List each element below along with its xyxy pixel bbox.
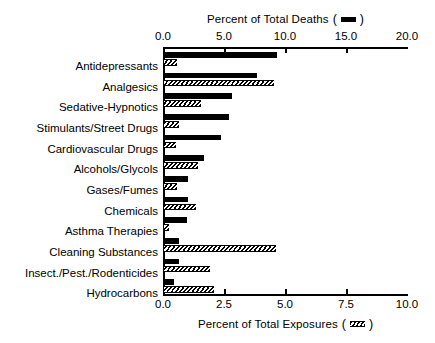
bar-exposures-alcohols-glycols bbox=[164, 162, 198, 169]
bottom-legend-close-paren: ) bbox=[369, 318, 373, 331]
category-label-antidepressants: Antidepressants bbox=[0, 60, 158, 72]
bottom-tick-mark-1 bbox=[224, 289, 226, 294]
top-axis-title-group: Percent of Total Deaths ( ) bbox=[163, 13, 408, 26]
bottom-tick-mark-3 bbox=[346, 289, 348, 294]
bar-exposures-analgesics bbox=[164, 80, 274, 87]
bar-deaths-hydrocarbons bbox=[164, 279, 174, 285]
hatched-bar-icon bbox=[350, 321, 365, 327]
bottom-tick-label-1: 2.5 bbox=[216, 298, 232, 310]
bottom-tick-mark-2 bbox=[285, 289, 287, 294]
bar-exposures-stimulants-street-drugs bbox=[164, 121, 179, 128]
bottom-tick-label-3: 7.5 bbox=[338, 298, 354, 310]
bar-deaths-cleaning-substances bbox=[164, 238, 179, 244]
category-label-cleaning-substances: Cleaning Substances bbox=[0, 246, 158, 258]
solid-black-bar-icon bbox=[341, 17, 356, 22]
category-label-hydrocarbons: Hydrocarbons bbox=[0, 287, 158, 299]
bar-deaths-analgesics bbox=[164, 73, 257, 79]
bar-deaths-asthma-therapies bbox=[164, 217, 187, 223]
top-tick-label-1: 5.0 bbox=[216, 30, 232, 42]
top-axis-title: Percent of Total Deaths bbox=[207, 13, 329, 25]
plot-area bbox=[164, 47, 408, 295]
bar-deaths-gases-fumes bbox=[164, 176, 188, 182]
bottom-tick-label-2: 5.0 bbox=[277, 298, 293, 310]
category-label-sedative-hypnotics: Sedative-Hypnotics bbox=[0, 101, 158, 113]
category-label-analgesics: Analgesics bbox=[0, 81, 158, 93]
category-label-alcohols-glycols: Alcohols/Glycols bbox=[0, 163, 158, 175]
bar-exposures-asthma-therapies bbox=[164, 224, 169, 231]
bottom-tick-label-0: 0.0 bbox=[155, 298, 171, 310]
bar-exposures-sedative-hypnotics bbox=[164, 100, 201, 107]
bar-exposures-chemicals bbox=[164, 204, 196, 211]
bar-deaths-stimulants-street-drugs bbox=[164, 114, 229, 120]
top-tick-label-2: 10.0 bbox=[274, 30, 296, 42]
bottom-axis-title-group: Percent of Total Exposures ( ) bbox=[163, 318, 408, 331]
bar-exposures-insect-pest-rodenticides bbox=[164, 266, 210, 273]
category-axis-labels: Antidepressants Analgesics Sedative-Hypn… bbox=[0, 47, 158, 295]
top-tick-label-4: 20.0 bbox=[396, 30, 418, 42]
category-label-stimulants-street-drugs: Stimulants/Street Drugs bbox=[0, 122, 158, 134]
bar-exposures-gases-fumes bbox=[164, 183, 177, 190]
category-label-asthma-therapies: Asthma Therapies bbox=[0, 225, 158, 237]
top-legend-open-paren: ( bbox=[333, 13, 337, 26]
bar-deaths-sedative-hypnotics bbox=[164, 93, 232, 99]
bottom-legend-open-paren: ( bbox=[342, 318, 346, 331]
category-label-gases-fumes: Gases/Fumes bbox=[0, 184, 158, 196]
bottom-tick-label-4: 10.0 bbox=[396, 298, 418, 310]
bottom-axis-title: Percent of Total Exposures bbox=[198, 318, 338, 330]
top-tick-label-3: 15.0 bbox=[335, 30, 357, 42]
category-label-cardiovascular-drugs: Cardiovascular Drugs bbox=[0, 143, 158, 155]
bar-deaths-insect-pest-rodenticides bbox=[164, 259, 179, 265]
category-label-chemicals: Chemicals bbox=[0, 205, 158, 217]
bar-exposures-hydrocarbons bbox=[164, 286, 214, 293]
bar-deaths-alcohols-glycols bbox=[164, 155, 204, 161]
bar-exposures-antidepressants bbox=[164, 59, 177, 66]
chart-container: Percent of Total Deaths ( ) 0.0 5.0 10.0… bbox=[0, 0, 435, 343]
bar-deaths-cardiovascular-drugs bbox=[164, 135, 221, 141]
bar-exposures-cleaning-substances bbox=[164, 245, 276, 252]
bar-exposures-cardiovascular-drugs bbox=[164, 142, 176, 149]
top-legend-close-paren: ) bbox=[360, 13, 364, 26]
bar-deaths-antidepressants bbox=[164, 52, 277, 58]
top-tick-label-0: 0.0 bbox=[155, 30, 171, 42]
bar-deaths-chemicals bbox=[164, 197, 188, 203]
category-label-insect-pest-rodenticides: Insect./Pest./Rodenticides bbox=[0, 267, 158, 279]
